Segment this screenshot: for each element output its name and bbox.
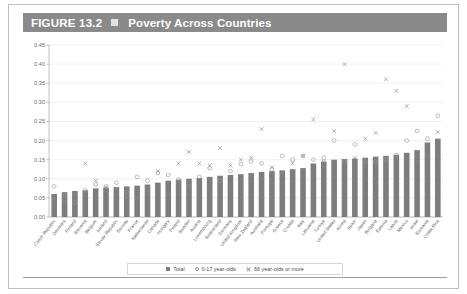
cross-x-marker [249,156,253,160]
open-circle-icon [195,267,199,271]
cross-x-marker [332,129,336,133]
x-tick-label: Korea [335,218,347,231]
cross-x-marker [374,131,378,135]
bar [373,157,379,217]
figure-header: FIGURE 13.2 Poverty Across Countries [23,13,447,32]
cross-x-marker [436,130,440,134]
open-circle-marker [156,171,160,175]
cross-x-marker [187,150,191,154]
x-tick-label: Croatia [282,218,295,233]
bar [425,142,431,217]
cross-x-marker [94,179,98,183]
y-tick-label: 0.10 [34,176,45,182]
y-tick-label: 0.05 [34,195,45,201]
x-tick-label: Mexico [396,218,409,233]
bar [114,187,120,217]
bar [259,172,265,217]
bar [331,160,337,217]
cross-x-marker [291,162,295,166]
chart-legend: Total 0-17 year-olds 66 year-olds or mor… [127,263,343,275]
bar [404,153,410,217]
open-circle-marker [229,169,233,173]
bar [145,185,151,217]
bar [290,169,296,217]
open-circle-marker [239,162,243,166]
bar [394,155,400,217]
bar [352,159,358,217]
bar [228,175,234,217]
bar [279,170,285,217]
bar-series-total [51,139,440,217]
open-circle-marker [270,167,274,171]
bar [300,168,306,217]
bar [217,176,223,217]
legend-label-elderly: 66 year-olds or more [254,266,304,272]
y-tick-label: 0.15 [34,157,45,163]
bar [321,162,327,217]
open-circle-marker [436,114,440,118]
cross-x-marker [229,164,233,168]
figure-title: Poverty Across Countries [128,17,271,29]
open-circle-marker [322,156,326,160]
open-circle-marker [353,142,357,146]
open-circle-marker [415,129,419,133]
bar [342,159,348,217]
bar [311,163,317,217]
footer-divider [23,277,447,278]
bar [93,188,99,217]
cross-x-marker [197,162,201,166]
poverty-bar-chart: 0.000.050.100.150.200.250.300.350.400.45… [23,39,447,285]
y-tick-label: 0.00 [34,214,45,220]
bar [238,174,244,217]
marker-series-children [52,114,439,205]
cross-x-marker [270,165,274,169]
y-axis-tick-labels: 0.000.050.100.150.200.250.300.350.400.45 [34,42,45,220]
cross-x-marker [156,169,160,173]
figure-number-label: FIGURE 13.2 [31,17,102,29]
bar [134,186,140,217]
open-circle-marker [114,181,118,185]
y-tick-label: 0.20 [34,138,45,144]
bar [103,188,109,217]
open-circle-marker [280,154,284,158]
bar [414,150,420,217]
bar [383,156,389,217]
cross-x-marker [83,162,87,166]
cross-x-marker [208,164,212,168]
cross-x-marker [384,78,388,82]
open-circle-marker [94,183,98,187]
cross-x-marker [260,127,264,131]
bar [435,139,441,217]
legend-label-total: Total [173,266,184,272]
open-circle-marker [260,162,264,166]
open-circle-marker [426,137,430,141]
bar [269,171,275,217]
cross-x-marker [363,137,367,141]
y-tick-label: 0.35 [34,80,45,86]
bar [51,194,57,217]
filled-square-icon [111,19,118,26]
open-circle-marker [135,175,139,179]
bar [165,181,171,217]
cross-x-marker [405,104,409,108]
bar [155,183,161,217]
bar [362,158,368,217]
legend-item-elderly: 66 year-olds or more [246,266,304,272]
figure-card: FIGURE 13.2 Poverty Across Countries 0.0… [8,4,459,289]
bar [124,186,130,217]
x-tick-label: Estonia [375,218,389,234]
bar [248,173,254,217]
bar [72,191,78,217]
y-tick-label: 0.40 [34,61,45,67]
open-circle-marker [166,173,170,177]
bar [176,180,182,217]
cross-x-icon [246,267,251,272]
y-tick-label: 0.30 [34,99,45,105]
cross-x-marker [311,118,315,122]
filled-square-icon [166,267,170,271]
cross-x-marker [218,146,222,150]
bar [207,177,213,217]
cross-x-marker [177,162,181,166]
open-circle-marker [249,160,253,164]
chart-plot-wrapper: 0.000.050.100.150.200.250.300.350.400.45… [23,39,447,285]
